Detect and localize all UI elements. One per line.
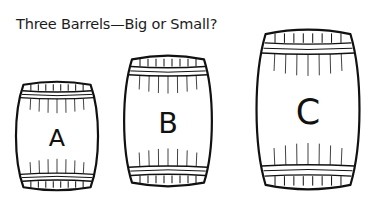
- body-stave: [83, 162, 84, 173]
- body-stave: [30, 162, 31, 173]
- page-title: Three Barrels—Big or Small?: [16, 16, 217, 32]
- body-stave: [30, 99, 31, 110]
- barrel-label: C: [296, 92, 320, 132]
- body-stave: [83, 99, 84, 110]
- barrel-c: C: [255, 30, 361, 189]
- barrel-label: A: [49, 124, 66, 152]
- barrel-a: A: [15, 82, 99, 190]
- barrel-label: B: [158, 106, 178, 140]
- barrel-b: B: [123, 56, 213, 186]
